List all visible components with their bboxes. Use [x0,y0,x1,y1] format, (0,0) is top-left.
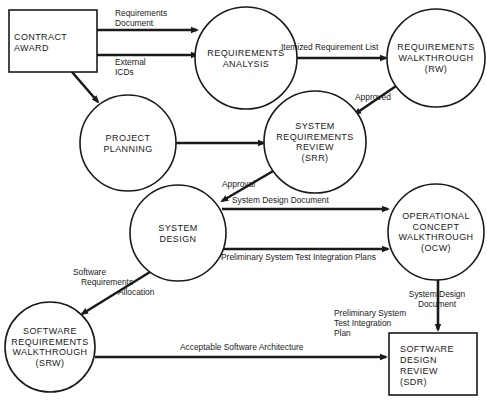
edge-label: Preliminary System Test Integration Plan… [221,252,376,262]
edge-label: Requirements [81,277,133,287]
workflow-diagram: CONTRACTAWARDREQUIREMENTSANALYSISREQUIRE… [0,0,487,400]
node-label-line: WALKTHROUGH [398,232,473,242]
edge-label: Document [115,18,154,28]
edge-label: Document [418,299,457,309]
edge-label: Software [73,267,106,277]
edge-label: System Design [409,289,466,299]
node-operational-concept-walkthrough: OPERATIONALCONCEPTWALKTHROUGH(OCW) [388,184,484,280]
node-label-line: DESIGN [400,355,437,365]
node-label-line: WALKTHROUGH [12,347,87,357]
node-label-line: REVIEW [400,366,438,376]
edge-label: Acceptable Software Architecture [180,342,304,352]
node-label-line: (RW) [425,64,447,74]
node-label-line: SOFTWARE [23,326,77,336]
node-label-line: SYSTEM [295,121,334,131]
node-label-line: PLANNING [103,144,152,154]
node-label-line: (OCW) [421,243,451,253]
node-label-line: WALKTHROUGH [398,53,473,63]
node-requirements-walkthrough: REQUIREMENTSWALKTHROUGH(RW) [387,9,485,107]
node-label-line: SOFTWARE [400,344,454,354]
node-system-requirements-review: SYSTEMREQUIREMENTSREVIEW(SRR) [264,91,366,193]
node-label-line: REQUIREMENTS [276,132,353,142]
edge-label: Allocation [118,287,155,297]
node-label-line: REQUIREMENTS [207,48,284,58]
node-project-planning: PROJECTPLANNING [80,95,176,191]
node-software-design-review: SOFTWAREDESIGNREVIEW(SDR) [389,333,477,395]
edge-label: Approval [222,179,255,189]
node-label-line: REVIEW [296,142,334,152]
node-contract-award: CONTRACTAWARD [9,10,97,72]
edge-label: ICDs [115,67,134,77]
node-label-line: CONCEPT [413,222,460,232]
edge-label: System Design Document [232,195,329,205]
node-label-line: (SRW) [36,358,65,368]
edge-label: Preliminary System [334,308,406,318]
edge-label: Approved [355,92,391,102]
node-label-line: DESIGN [160,234,197,244]
node-label-line: OPERATIONAL [402,211,470,221]
edge-arrow-e3 [72,72,98,102]
node-label-line: SYSTEM [158,223,197,233]
edge-label: Plan [334,328,351,338]
edge-label: Itemized Requirement List [281,42,379,52]
edge-label: Test Integration [334,318,392,328]
node-system-design: SYSTEMDESIGN [130,185,226,281]
node-software-requirements-walkthrough: SOFTWAREREQUIREMENTSWALKTHROUGH(SRW) [5,302,95,392]
node-label-line: (SDR) [400,377,427,387]
node-label-line: (SRR) [302,153,329,163]
edge-label: Requirements [115,8,167,18]
node-label-line: REQUIREMENTS [11,337,88,347]
edge-label: External [115,57,146,67]
node-label-line: ANALYSIS [223,59,270,69]
node-label-line: CONTRACT [14,32,67,42]
node-label-line: AWARD [14,43,49,53]
node-label-line: REQUIREMENTS [397,42,474,52]
node-label-line: PROJECT [106,133,151,143]
node-requirements-analysis: REQUIREMENTSANALYSIS [195,7,297,109]
